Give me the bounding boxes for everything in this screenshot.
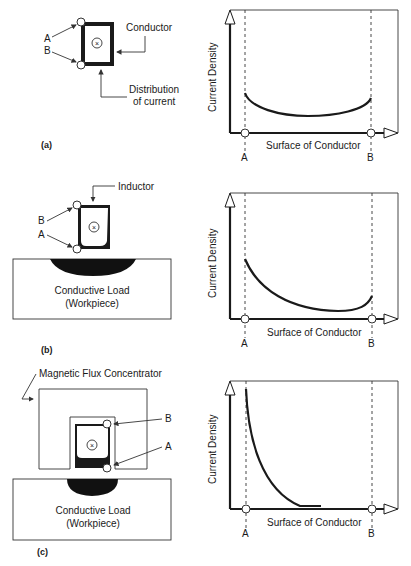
y-axis-label: Current Density [207,229,218,298]
x-tick-b: B [368,528,375,539]
load-label-2: (Workpiece) [65,298,119,309]
x-axis-label: Surface of Conductor [266,140,361,151]
x-tick-a: A [241,338,248,349]
panel-c-chart: Current Density Surface of Conductor A B [207,381,398,539]
panel-a-label: (a) [41,140,52,150]
conductor-label: Conductor [126,22,173,33]
panel-c-label: (c) [37,547,48,557]
x-axis-label: Surface of Conductor [267,327,362,338]
panel-b-label: (b) [41,345,53,355]
svg-text:×: × [90,442,94,449]
y-axis-label: Current Density [207,415,218,484]
x-tick-a: A [242,528,249,539]
distribution-label-2: of current [133,96,175,107]
x-tick-a: A [241,152,248,163]
panel-b-chart: Current Density Surface of Conductor A B [207,193,398,349]
point-a-marker [77,18,85,26]
panel-a-diagram: × A B Conductor Distribution of current … [41,18,179,150]
current-density-curve [245,93,371,116]
panel-a-chart: Current Density Surface of Conductor A B [207,10,398,163]
distribution-label-1: Distribution [129,84,179,95]
y-axis-label: Current Density [207,43,218,112]
svg-text:×: × [92,224,96,231]
label-b: B [38,215,45,226]
inductor-label: Inductor [118,181,155,192]
panel-c-diagram: × B A Magnetic Flux Concentrator Conduct… [13,368,172,557]
label-a: A [44,33,51,44]
panel-b-diagram: × B A Inductor Conductive Load (Workpiec… [13,181,171,355]
current-density-curve [246,389,321,506]
label-b: B [44,45,51,56]
load-label-2: (Workpiece) [66,518,120,529]
concentrator-label: Magnetic Flux Concentrator [39,368,163,379]
label-a: A [38,229,45,240]
x-tick-b: B [368,338,375,349]
current-density-curve [245,259,372,311]
point-b-marker [77,61,85,69]
label-b: B [165,413,172,424]
label-a: A [165,441,172,452]
x-axis-label: Surface of Conductor [267,517,362,528]
svg-text:×: × [95,40,99,47]
load-label-1: Conductive Load [55,505,130,516]
load-label-1: Conductive Load [54,285,129,296]
x-tick-b: B [367,152,374,163]
